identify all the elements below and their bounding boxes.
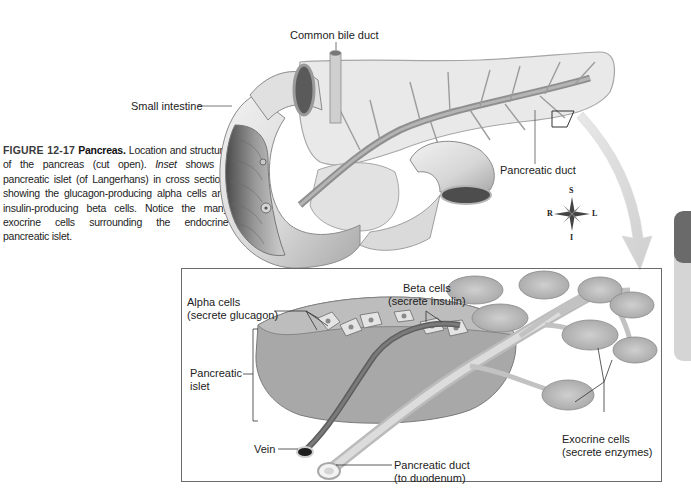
label-exocrine-cells-line1: Exocrine cells: [562, 433, 652, 446]
compass-right: R: [547, 209, 553, 218]
compass-inferior: I: [570, 233, 573, 242]
magnify-arrow-icon: [577, 112, 652, 270]
label-beta-cells: Beta cells (secrete insulin): [388, 282, 466, 308]
label-small-intestine: Small intestine: [131, 100, 203, 113]
label-exocrine-cells: Exocrine cells (secrete enzymes): [562, 433, 652, 459]
compass-icon: [554, 197, 590, 231]
label-common-bile-duct: Common bile duct: [290, 29, 379, 42]
label-pancreatic-islet-line1: Pancreatic: [190, 367, 242, 380]
label-pancreatic-duct: Pancreatic duct: [500, 164, 576, 177]
label-beta-cells-line2: (secrete insulin): [388, 295, 466, 308]
label-alpha-cells: Alpha cells (secrete glucagon): [187, 296, 278, 322]
label-pancreatic-islet: Pancreatic islet: [190, 367, 242, 393]
label-beta-cells-line1: Beta cells: [388, 282, 466, 295]
compass-left: L: [592, 209, 597, 218]
page-side-tab: [674, 211, 691, 361]
label-inset-pancreatic-duct-line1: Pancreatic duct: [394, 459, 470, 472]
label-inset-pancreatic-duct-line2: (to duodenum): [394, 472, 470, 485]
label-inset-pancreatic-duct: Pancreatic duct (to duodenum): [394, 459, 470, 485]
label-pancreatic-islet-line2: islet: [190, 380, 242, 393]
compass-superior: S: [569, 186, 573, 195]
common-bile-duct: [330, 51, 341, 124]
label-vein: Vein: [254, 443, 275, 456]
label-alpha-cells-line2: (secrete glucagon): [187, 309, 278, 322]
label-exocrine-cells-line2: (secrete enzymes): [562, 446, 652, 459]
label-alpha-cells-line1: Alpha cells: [187, 296, 278, 309]
